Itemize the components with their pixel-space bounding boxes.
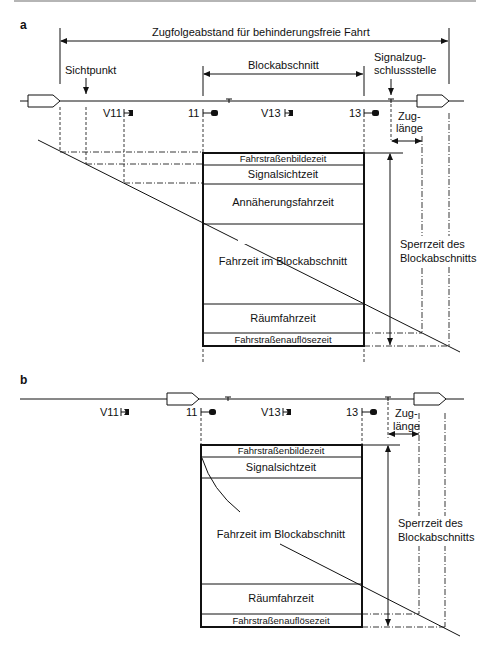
signal-11-label: 11 [188,107,199,119]
distant-signal-icon [285,109,293,117]
signal-13-label: 13 [349,107,361,119]
block-signal-sighting: Signalsichtzeit [248,168,318,180]
block-clearing-time: Räumfahrzeit [248,592,313,604]
train-length-label-1: Zug- [395,407,418,419]
train-length-label-2: länge [396,122,423,134]
block-section-label: Blockabschnitt [248,59,319,71]
signal-v11-label: V11 [103,107,122,119]
headway-label: Zugfolgeabstand für behinderungsfreie Fa… [152,26,370,38]
block-clearing-time: Räumfahrzeit [250,312,315,324]
signal-11-label: 11 [186,406,197,418]
block-running-time: Fahrzeit im Blockabschnitt [219,255,347,267]
train-front-icon [414,393,446,405]
block-route-setting: Fahrstraßenbildezeit [240,153,327,164]
block-route-setting: Fahrstraßenbildezeit [238,445,325,456]
block-running-time: Fahrzeit im Blockabschnitt [217,528,345,540]
sight-point-label: Sichtpunkt [65,64,116,76]
clearing-point-label-1: Signalzug- [374,51,426,63]
blocking-time-diagram: a Zugfolgeabstand für behinderungsfreie … [0,0,488,652]
distant-signal-icon [121,408,129,416]
main-signal-icon [203,109,218,117]
block-release-time: Fahrstraßenauflösezeit [234,334,332,345]
train-rear-icon [28,95,60,107]
signal-v13-label: V13 [261,406,281,418]
blocking-time-label-1: Sperrzeit des [400,238,465,250]
train-front-icon [417,95,449,107]
blocking-time-label-2: Blockabschnitts [400,252,477,264]
train-rear-icon [167,393,199,405]
blocking-time-label-1: Sperrzeit des [398,517,463,529]
block-signal-sighting: Signalsichtzeit [246,461,316,473]
train-length-label-1: Zug- [398,110,421,122]
signal-v11-label: V11 [100,406,119,418]
block-release-time: Fahrstraßenauflösezeit [232,615,330,626]
main-signal-icon [201,408,216,416]
train-path-curve [202,458,240,512]
main-signal-icon [364,109,379,117]
signal-v13-label: V13 [261,107,281,119]
panel-a: a Zugfolgeabstand für behinderungsfreie … [20,18,482,362]
signal-13-label: 13 [346,406,358,418]
block-approach-time: Annäherungsfahrzeit [232,196,334,208]
distant-signal-icon [124,109,133,117]
panel-b-label: b [20,373,27,387]
clearing-point-label-2: schlussstelle [374,64,436,76]
blocking-time-label-2: Blockabschnitts [398,531,475,543]
label-mask [238,236,340,244]
distant-signal-icon [283,408,291,416]
train-length-label-2: länge [393,420,420,432]
main-signal-icon [362,408,377,416]
panel-b: b V11 11 V13 13 Zug- länge [20,373,482,636]
panel-a-label: a [20,18,27,32]
